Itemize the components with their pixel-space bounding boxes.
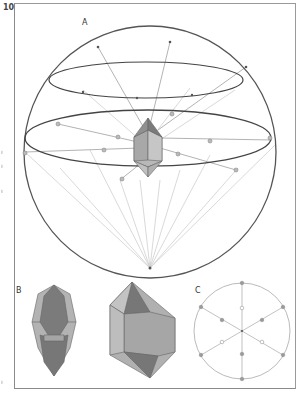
- panel-b-crystal-bipyramid: [110, 282, 175, 378]
- panel-label-c: C: [195, 286, 201, 295]
- central-crystal: [134, 118, 162, 177]
- panel-b-crystal-prismatic: [32, 285, 76, 376]
- panel-label-a: A: [82, 18, 87, 27]
- panel-c-stereogram: [194, 281, 290, 381]
- panel-label-b: B: [16, 286, 22, 295]
- panel-a-sphere-diagram: [0, 0, 305, 410]
